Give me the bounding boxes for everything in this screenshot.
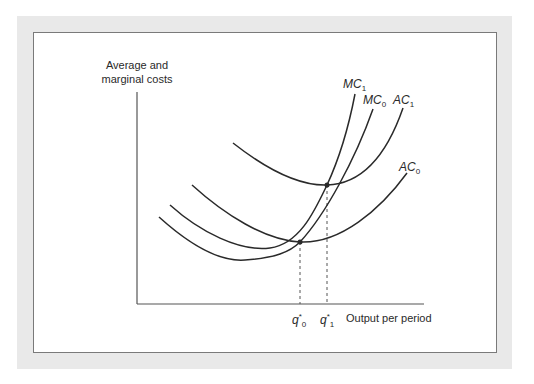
- q1-sub: 1: [330, 320, 334, 329]
- mc0-label-main: MC: [363, 93, 382, 107]
- mc1-label: MC1: [343, 77, 366, 93]
- x-axis-label: Output per period: [346, 312, 432, 324]
- ac1-label: AC1: [393, 93, 414, 109]
- ac1-label-main: AC: [393, 93, 410, 107]
- mc1-curve: [170, 94, 355, 249]
- ac0-label: AC0: [399, 160, 420, 176]
- mc0-label: MC0: [363, 93, 386, 109]
- mc1-label-main: MC: [343, 77, 362, 91]
- mc0-label-sub: 0: [382, 100, 386, 109]
- q0-sub: 0: [302, 320, 306, 329]
- ac1-label-sub: 1: [410, 100, 414, 109]
- q1-equilibrium-dot: [325, 183, 330, 188]
- ac0-label-main: AC: [399, 160, 416, 174]
- q1-tick-label: q*1: [320, 312, 334, 329]
- ac1-curve: [233, 108, 403, 185]
- ac0-label-sub: 0: [416, 167, 420, 176]
- chart-plot: [0, 0, 534, 384]
- mc0-curve: [159, 109, 373, 260]
- y-axis-label-line2: marginal costs: [87, 72, 187, 86]
- y-axis-label-line1: Average and: [87, 58, 187, 72]
- y-axis-label: Average and marginal costs: [87, 58, 187, 86]
- q0-tick-label: q*0: [292, 312, 306, 329]
- q0-equilibrium-dot: [298, 240, 303, 245]
- q0-main: q: [292, 313, 299, 327]
- q1-main: q: [320, 313, 327, 327]
